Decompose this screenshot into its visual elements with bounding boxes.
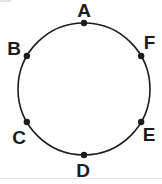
scan-artifact-corner-mark bbox=[0, 0, 11, 2]
point-dot-D bbox=[81, 152, 87, 158]
point-dot-B bbox=[24, 53, 30, 59]
circle-diagram: ABCDEF bbox=[0, 0, 162, 184]
point-dot-F bbox=[138, 53, 144, 59]
point-label-B: B bbox=[7, 38, 21, 59]
point-label-C: C bbox=[12, 127, 26, 148]
diagram-canvas: ABCDEF bbox=[0, 0, 162, 184]
point-label-A: A bbox=[77, 0, 91, 21]
circle-outline bbox=[18, 23, 150, 155]
point-label-E: E bbox=[143, 124, 156, 145]
point-label-D: D bbox=[76, 160, 90, 181]
point-dot-A bbox=[81, 20, 87, 26]
point-label-F: F bbox=[144, 32, 156, 53]
point-dot-C bbox=[24, 119, 30, 125]
